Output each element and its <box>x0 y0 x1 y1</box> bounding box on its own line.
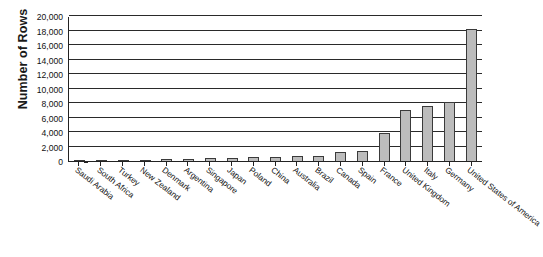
bar-slot <box>460 17 482 161</box>
x-label-slot: United States of America <box>460 166 482 256</box>
bar-slot <box>352 17 374 161</box>
x-label-slot: Poland <box>242 166 264 256</box>
y-axis-tick-label: 16,000 <box>37 41 63 51</box>
y-axis-tick-label: 14,000 <box>37 56 63 66</box>
x-axis-tick-labels: Saudi ArabiaSouth AfricaTurkeyNew Zealan… <box>68 166 482 256</box>
bar <box>161 159 172 161</box>
x-label-slot: France <box>373 166 395 256</box>
bar-slot <box>69 17 91 161</box>
x-label-slot: China <box>264 166 286 256</box>
x-label-slot: Australia <box>286 166 308 256</box>
bar <box>140 160 151 162</box>
x-label-slot: Singapore <box>199 166 221 256</box>
y-axis-tick-label: 4,000 <box>41 128 63 138</box>
y-axis-tick-labels: 02,0004,0006,0008,00010,00012,00014,0001… <box>20 0 67 257</box>
x-label-slot: Spain <box>351 166 373 256</box>
bar <box>227 158 238 161</box>
y-axis-tick-label: 10,000 <box>37 85 63 95</box>
bar <box>357 151 368 161</box>
gridline <box>69 15 482 16</box>
bar-slot <box>265 17 287 161</box>
bar <box>270 157 281 161</box>
bar <box>292 156 303 161</box>
bar <box>335 152 346 161</box>
bar <box>183 159 194 161</box>
bar <box>400 110 411 161</box>
y-axis-tick-label: 6,000 <box>41 114 63 124</box>
x-label-slot: Germany <box>439 166 461 256</box>
x-label-slot: Denmark <box>155 166 177 256</box>
y-axis-tick-label: 12,000 <box>37 70 63 80</box>
bar-slot <box>417 17 439 161</box>
x-label-slot: South Africa <box>90 166 112 256</box>
bar <box>422 106 433 161</box>
bar <box>248 157 259 161</box>
bar <box>379 133 390 161</box>
bar-slot <box>395 17 417 161</box>
bar-slot <box>221 17 243 161</box>
x-label-slot: Turkey <box>112 166 134 256</box>
plot-area <box>68 17 482 162</box>
x-label-slot: Canada <box>330 166 352 256</box>
bar-slot <box>156 17 178 161</box>
bar-slot <box>178 17 200 161</box>
bar-slot <box>438 17 460 161</box>
x-label-slot: Argentina <box>177 166 199 256</box>
bar-slot <box>286 17 308 161</box>
x-axis-tick-label: United States of America <box>466 165 543 228</box>
bar-slot <box>91 17 113 161</box>
y-axis-tick-label: 20,000 <box>37 12 63 22</box>
bar <box>74 160 85 162</box>
bar-slot <box>199 17 221 161</box>
bar-slot <box>134 17 156 161</box>
x-label-slot: Italy <box>417 166 439 256</box>
y-axis-tick-label: 18,000 <box>37 27 63 37</box>
bar-slot <box>308 17 330 161</box>
bar <box>205 158 216 161</box>
y-axis-tick-label: 0 <box>58 157 63 167</box>
bar-series <box>69 17 482 161</box>
bar <box>96 160 107 162</box>
bar-slot <box>373 17 395 161</box>
bar <box>444 102 455 161</box>
x-label-slot: Japan <box>221 166 243 256</box>
bar <box>313 156 324 161</box>
x-label-slot: United Kingdom <box>395 166 417 256</box>
bar-slot <box>330 17 352 161</box>
y-axis-tick-label: 8,000 <box>41 99 63 109</box>
x-axis-tick-label: Italy <box>422 165 440 182</box>
x-label-slot: Saudi Arabia <box>68 166 90 256</box>
x-label-slot: Brazil <box>308 166 330 256</box>
x-label-slot: New Zealand <box>133 166 155 256</box>
y-axis-tick-label: 2,000 <box>41 143 63 153</box>
bar-slot <box>243 17 265 161</box>
bar <box>466 29 477 161</box>
bar-slot <box>112 17 134 161</box>
bar <box>118 160 129 162</box>
